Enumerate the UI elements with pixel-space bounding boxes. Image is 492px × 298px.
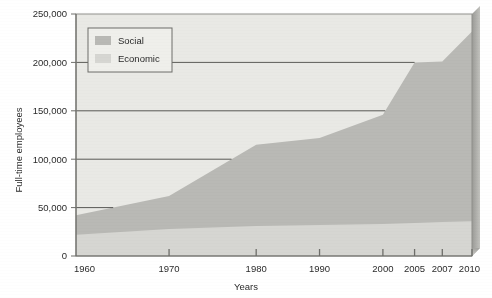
x-tick-label: 1960 xyxy=(74,263,95,274)
x-tick-label: 1980 xyxy=(246,263,267,274)
y-tick-label: 0 xyxy=(62,250,67,261)
y-tick-label: 250,000 xyxy=(33,8,67,19)
legend-label-social: Social xyxy=(118,35,144,46)
x-tick-label: 1990 xyxy=(309,263,330,274)
x-axis-title: Years xyxy=(234,281,258,292)
legend-label-economic: Economic xyxy=(118,53,160,64)
y-axis-ticks: 050,000100,000150,000200,000250,000 xyxy=(33,8,76,261)
y-tick-label: 150,000 xyxy=(33,105,67,116)
legend-swatch-social xyxy=(95,36,111,45)
chart-legend: Social Economic xyxy=(88,28,172,72)
chart-canvas: 050,000100,000150,000200,000250,000 1960… xyxy=(0,0,492,298)
y-tick-label: 50,000 xyxy=(38,202,67,213)
legend-swatch-economic xyxy=(95,54,111,63)
x-tick-label: 2010 xyxy=(459,263,480,274)
stacked-area-chart: 050,000100,000150,000200,000250,000 1960… xyxy=(0,0,492,298)
x-tick-label: 2005 xyxy=(404,263,425,274)
y-tick-label: 200,000 xyxy=(33,57,67,68)
x-tick-label: 2007 xyxy=(432,263,453,274)
x-tick-label: 2000 xyxy=(372,263,393,274)
y-tick-label: 100,000 xyxy=(33,154,67,165)
y-axis-title: Full-time employees xyxy=(13,107,24,192)
x-tick-label: 1970 xyxy=(158,263,179,274)
chart-bevel-right-edge xyxy=(472,6,480,256)
